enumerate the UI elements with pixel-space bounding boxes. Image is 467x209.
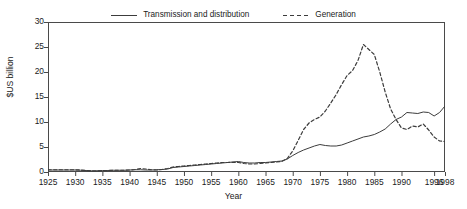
plot-area (48, 22, 445, 172)
y-tick-label: 0 (28, 167, 44, 176)
x-tick-label: 1945 (142, 177, 172, 187)
y-tick-label: 30 (28, 17, 44, 26)
chart-figure: Transmission and distribution Generation… (0, 0, 467, 209)
x-tick-label: 1980 (332, 177, 362, 187)
x-axis-tick-labels: 1925193019351940194519501955196019651970… (0, 177, 467, 189)
y-axis-tick-labels: 051015202530 (26, 22, 44, 172)
x-tick-label: 1935 (87, 177, 117, 187)
y-axis-title: $US billion (5, 41, 15, 113)
x-tick-label: 1975 (305, 177, 335, 187)
x-axis-title: Year (0, 191, 467, 201)
x-tick-label: 1940 (115, 177, 145, 187)
series-line-transmission-and-distribution (48, 106, 445, 171)
y-tick-label: 20 (28, 67, 44, 76)
x-tick-label: 1960 (223, 177, 253, 187)
legend-label-transmission-and-distribution: Transmission and distribution (143, 10, 249, 20)
legend-swatch-dashed-line-icon (283, 11, 309, 20)
x-tick-label: 1930 (60, 177, 90, 187)
y-tick-label: 5 (28, 142, 44, 151)
y-tick-label: 25 (28, 42, 44, 51)
x-tick-label: 1990 (386, 177, 416, 187)
legend-entry-transmission-and-distribution: Transmission and distribution (111, 10, 249, 20)
x-tick-label: 1950 (169, 177, 199, 187)
series-line-generation (48, 45, 445, 172)
x-tick-label: 1925 (33, 177, 63, 187)
y-tick-label: 15 (28, 92, 44, 101)
legend-entry-generation: Generation (283, 10, 356, 20)
x-tick-label: 1998 (430, 177, 460, 187)
y-tick-label: 10 (28, 117, 44, 126)
legend-label-generation: Generation (315, 10, 356, 20)
legend-swatch-solid-line-icon (111, 11, 137, 20)
x-tick-label: 1965 (251, 177, 281, 187)
x-tick-label: 1970 (278, 177, 308, 187)
x-tick-label: 1985 (359, 177, 389, 187)
data-series-layer (48, 22, 445, 172)
x-tick-label: 1955 (196, 177, 226, 187)
